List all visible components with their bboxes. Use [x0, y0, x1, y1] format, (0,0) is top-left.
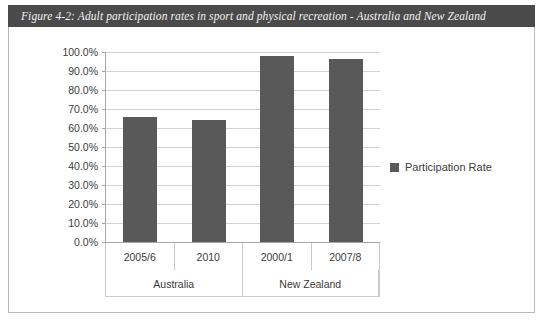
figure-container: Figure 4-2: Adult participation rates in… [0, 0, 543, 323]
y-axis-label: 40.0% [68, 160, 98, 172]
y-axis-label: 90.0% [68, 65, 98, 77]
y-axis-label: 70.0% [68, 103, 98, 115]
group-label-new-zealand: New Zealand [243, 270, 380, 297]
bar-2000-1 [260, 56, 294, 242]
category-axis-groups-row: AustraliaNew Zealand [106, 270, 379, 297]
group-label-australia: Australia [106, 270, 243, 297]
category-label-2007-8: 2007/8 [312, 243, 380, 270]
y-axis-label: 20.0% [68, 198, 98, 210]
y-axis-label: 10.0% [68, 217, 98, 229]
plot-area: 100.0%90.0%80.0%70.0%60.0%50.0%40.0%30.0… [105, 52, 380, 243]
y-axis-label: 80.0% [68, 84, 98, 96]
y-axis-label: 0.0% [74, 236, 98, 248]
category-axis-years-row: 2005/620102000/12007/8 [106, 243, 379, 270]
legend-swatch-icon [390, 163, 399, 172]
y-axis-label: 50.0% [68, 141, 98, 153]
category-label-2000-1: 2000/1 [243, 243, 312, 270]
bar-2007-8 [329, 59, 363, 242]
y-axis-label: 60.0% [68, 122, 98, 134]
figure-caption-text: Figure 4-2: Adult participation rates in… [8, 10, 486, 22]
bar-chart: 100.0%90.0%80.0%70.0%60.0%50.0%40.0%30.0… [9, 28, 534, 312]
bar-2010 [192, 120, 226, 242]
chart-legend: Participation Rate [390, 161, 492, 173]
y-axis-label: 100.0% [62, 46, 98, 58]
category-label-2005-6: 2005/6 [106, 243, 175, 270]
bars-group [106, 52, 380, 242]
category-axis: 2005/620102000/12007/8 AustraliaNew Zeal… [105, 243, 380, 297]
y-axis-label: 30.0% [68, 179, 98, 191]
legend-label: Participation Rate [405, 161, 492, 173]
category-label-2010: 2010 [175, 243, 244, 270]
bar-2005-6 [123, 117, 157, 242]
figure-caption-bar: Figure 4-2: Adult participation rates in… [8, 5, 535, 27]
